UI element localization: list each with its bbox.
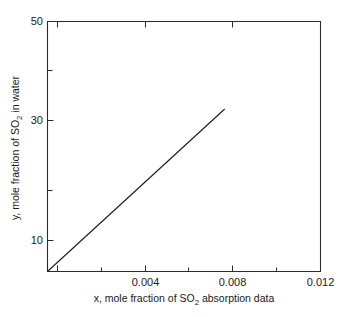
x-tick-labels: 0.004 0.008 0.012 <box>132 276 335 288</box>
x-axis-title-pre: x, mole fraction of SO <box>94 292 195 304</box>
y-axis-title-post: in water <box>9 75 21 115</box>
x-axis-ticks <box>58 22 321 272</box>
x-axis-title-post: absorption data <box>199 292 274 304</box>
y-axis-ticks <box>48 22 54 241</box>
y-tick-label-10: 10 <box>31 234 43 246</box>
x-axis-title: x, mole fraction of SO2 absorption data <box>94 292 275 307</box>
y-axis-title-pre: y, mole fraction of SO <box>9 120 21 220</box>
chart-canvas: 50 30 10 0.004 0.008 0.012 x, mole fract… <box>0 0 350 317</box>
y-tick-label-50: 50 <box>31 15 43 27</box>
x-tick-label-0008: 0.008 <box>219 276 247 288</box>
chart-figure: 50 30 10 0.004 0.008 0.012 x, mole fract… <box>0 0 350 317</box>
x-tick-label-0004: 0.004 <box>132 276 160 288</box>
y-tick-labels: 50 30 10 <box>31 15 43 246</box>
y-tick-label-30: 30 <box>31 114 43 126</box>
x-tick-label-0012: 0.012 <box>307 276 335 288</box>
y-axis-title: y, mole fraction of SO2 in water <box>9 75 24 220</box>
data-series-so2-equilibrium <box>48 109 225 271</box>
